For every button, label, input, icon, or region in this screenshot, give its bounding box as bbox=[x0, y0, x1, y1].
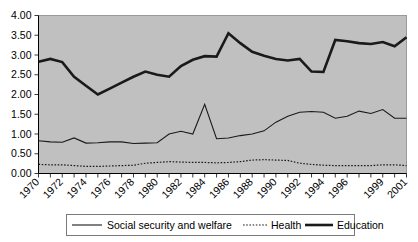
y-axis-tick-labels: 0.000.501.001.502.002.503.003.504.00 bbox=[11, 9, 32, 179]
plot-area-background bbox=[39, 16, 407, 174]
y-tick-label: 1.00 bbox=[11, 128, 32, 140]
legend-label-health: Health bbox=[271, 219, 302, 231]
y-tick-label: 3.50 bbox=[11, 29, 32, 41]
y-tick-label: 0.50 bbox=[11, 147, 32, 159]
chart-container: 0.000.501.001.502.002.503.003.504.00 197… bbox=[0, 0, 418, 242]
y-tick-label: 4.00 bbox=[11, 9, 32, 21]
y-tick-label: 2.50 bbox=[11, 68, 32, 80]
y-tick-label: 3.00 bbox=[11, 49, 32, 61]
y-tick-label: 1.50 bbox=[11, 108, 32, 120]
chart-legend: Social security and welfareHealthEducati… bbox=[67, 215, 384, 236]
legend-label-social-security-and-welfare: Social security and welfare bbox=[107, 219, 232, 231]
y-tick-label: 0.00 bbox=[11, 167, 32, 179]
y-tick-label: 2.00 bbox=[11, 88, 32, 100]
legend-items: Social security and welfareHealthEducati… bbox=[72, 219, 384, 231]
legend-label-education: Education bbox=[337, 219, 384, 231]
line-chart: 0.000.501.001.502.002.503.003.504.00 197… bbox=[0, 0, 418, 242]
